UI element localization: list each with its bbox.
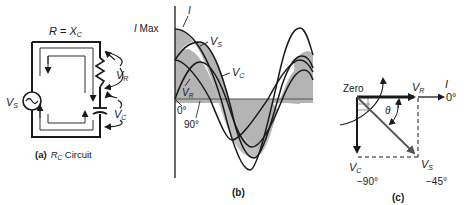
zero-label: Zero: [343, 83, 364, 94]
theta-arc: [390, 100, 398, 124]
axis-band: [175, 99, 313, 103]
vc-arrow-top: [106, 96, 117, 98]
deg-minus90-label: −90°: [357, 176, 378, 187]
theta-label: θ: [385, 105, 391, 116]
deg-0-label: 0°: [177, 105, 187, 116]
i-phasor-label: I: [445, 78, 448, 90]
i-leader: [183, 16, 188, 27]
panel-b-waveforms: I Max I VS VC VR 0° 90° (b): [134, 5, 313, 198]
caption-b: (b): [232, 187, 245, 198]
vc-curve-label: VC: [232, 66, 245, 79]
rc-circuit-figure: R = XC VS VR VC (a)RC Circuit: [0, 0, 468, 205]
current-loop-inner-bottom: [48, 112, 85, 123]
panel-a-circuit: R = XC VS VR VC (a)RC Circuit: [6, 25, 128, 161]
deg-90-label: 90°: [184, 119, 199, 130]
caption-c: (c): [392, 192, 404, 203]
vc-arrow-bottom: [106, 120, 122, 127]
current-loop-inner-top: [48, 56, 85, 93]
wire-bottom: [32, 110, 100, 137]
resistor-icon: [96, 58, 104, 87]
vc-phasor-label: VC: [349, 161, 362, 174]
vs-phasor-label: VS: [421, 158, 433, 171]
vc-label: VC: [114, 108, 127, 121]
r-equals-xc-label: R = XC: [49, 25, 83, 38]
vc-arrow-top-curve: [118, 100, 122, 108]
deg-0-phasor-label: 0°: [446, 91, 457, 103]
panel-c-phasor: Zero θ VR I 0° VC VS −90° −45° (c): [340, 78, 457, 203]
deg-minus45-label: −45°: [426, 176, 447, 187]
vc-leader: [222, 73, 230, 76]
deg-90-leader: [196, 101, 200, 118]
capacitor-plate-bottom: [93, 112, 107, 114]
i-curve-label: I: [188, 5, 191, 16]
vs-source-label: VS: [6, 96, 18, 109]
imax-label: I Max: [134, 23, 158, 34]
vr-label: VR: [116, 69, 128, 82]
vr-phasor-label: VR: [412, 81, 424, 94]
caption-a: (a)RC Circuit: [35, 149, 92, 161]
vs-curve-label: VS: [210, 35, 222, 48]
